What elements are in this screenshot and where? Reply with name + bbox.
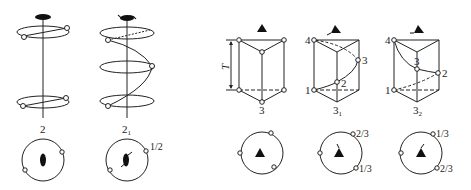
three-fold-screw-right-symbol-icon — [327, 25, 341, 35]
atom-marker — [282, 38, 287, 43]
atom-marker — [312, 88, 317, 93]
axis-label-2: 2 — [40, 123, 46, 135]
atom-marker — [21, 104, 26, 109]
atom-marker — [435, 166, 439, 170]
stereogram-2 — [22, 139, 64, 181]
three-fold-screw-right-symbol-icon — [334, 148, 344, 157]
atom-marker — [269, 131, 273, 135]
axis-label-3: 3 — [259, 104, 265, 116]
atom-marker — [237, 88, 242, 93]
atom-marker — [260, 50, 265, 55]
atom-marker — [399, 151, 403, 155]
axis-label-2-1: 21 — [122, 123, 132, 137]
panel-axis-2-1 — [100, 15, 155, 118]
panel-axis-3 — [226, 24, 286, 104]
atom-marker — [272, 165, 276, 169]
symmetry-diagram: 2 21 1/2 3 T 31 4 3 2 1 2/3 1/3 32 4 3 2… — [0, 0, 471, 190]
atom-marker — [106, 104, 111, 109]
panel-axis-3-1 — [312, 25, 361, 102]
stereogram-label: 1/3 — [359, 163, 372, 174]
atom-marker — [335, 80, 340, 85]
atom-marker — [318, 151, 322, 155]
atom-marker — [282, 88, 287, 93]
atom-marker — [354, 166, 358, 170]
atom-marker — [356, 58, 361, 63]
atom-marker — [351, 132, 355, 136]
atom-marker — [238, 151, 242, 155]
vertex-label: 3 — [362, 54, 368, 66]
atom-marker — [106, 38, 111, 43]
atom-marker — [22, 35, 27, 40]
atom-marker — [392, 88, 397, 93]
stereogram-label: 2/3 — [440, 163, 453, 174]
stereogram-3 — [238, 131, 283, 174]
three-fold-symbol-icon — [255, 148, 265, 157]
vertex-label: 2 — [442, 67, 448, 79]
panel-axis-2 — [17, 14, 70, 118]
two-fold-symbol-icon — [35, 14, 51, 20]
vertex-label: 2 — [341, 77, 347, 89]
atom-marker — [431, 132, 435, 136]
atom-marker — [60, 150, 64, 154]
atom-marker — [108, 168, 112, 172]
vertex-label: 4 — [385, 34, 391, 46]
three-fold-screw-left-symbol-icon — [416, 148, 426, 157]
vertex-label: 1 — [385, 84, 391, 96]
stereogram-label: 1/3 — [436, 128, 449, 139]
helix-path — [314, 82, 337, 90]
vertex-label: 4 — [305, 34, 311, 46]
vertex-label: 3 — [414, 55, 420, 67]
atom-marker — [392, 38, 397, 43]
atom-marker — [237, 38, 242, 43]
three-fold-screw-left-symbol-icon — [410, 25, 424, 33]
atom-marker — [415, 67, 420, 72]
two-fold-symbol-icon — [40, 154, 46, 167]
atom-marker — [23, 168, 27, 172]
stereogram-2-1 — [106, 139, 148, 181]
axis-label-3-2: 32 — [413, 104, 423, 118]
three-fold-symbol-icon — [257, 24, 267, 32]
vertex-label: 1 — [305, 84, 311, 96]
atom-marker — [312, 38, 317, 43]
period-label-T: T — [219, 63, 231, 70]
atom-marker — [64, 96, 69, 101]
atom-marker — [150, 64, 155, 69]
stereogram-label: 2/3 — [356, 128, 369, 139]
stereogram-label: 1/2 — [150, 141, 163, 152]
axis-label-3-1: 31 — [333, 104, 343, 118]
atom-marker — [144, 149, 148, 153]
atom-marker — [436, 71, 441, 76]
atom-marker — [65, 26, 70, 31]
